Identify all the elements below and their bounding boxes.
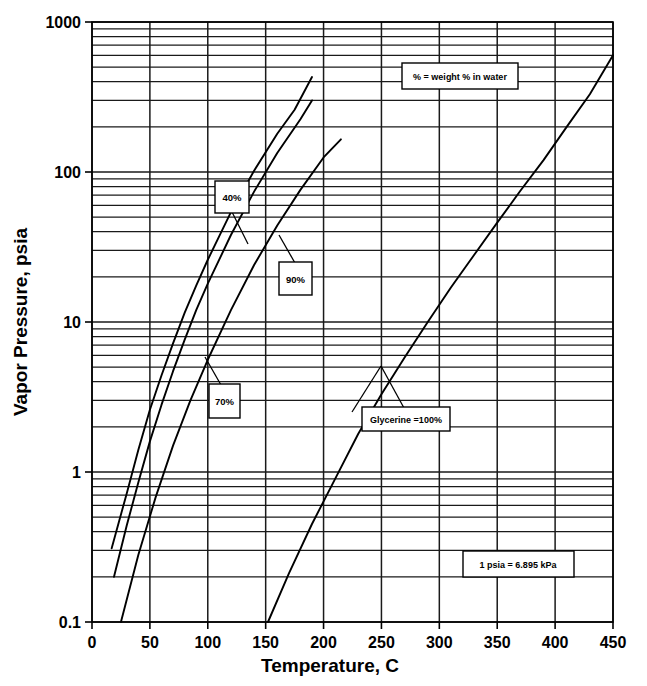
x-tick-label: 250 xyxy=(368,634,395,651)
callout-70[interactable]: 70% xyxy=(209,384,240,418)
vapor-pressure-chart: 050100150200250300350400450 0.1110100100… xyxy=(0,0,647,686)
x-tick-label: 100 xyxy=(194,634,221,651)
x-tick-label: 0 xyxy=(88,634,97,651)
callout-glycerine[interactable]: Glycerine =100% xyxy=(362,407,450,431)
x-tick-label: 150 xyxy=(252,634,279,651)
x-tick-label: 200 xyxy=(310,634,337,651)
note-psia-kpa-label: 1 psia = 6.895 kPa xyxy=(480,560,558,570)
y-tick-label: 0.1 xyxy=(59,614,81,631)
callout-90-label: 90% xyxy=(286,274,306,285)
x-tick-label: 50 xyxy=(141,634,159,651)
y-tick-label: 1000 xyxy=(45,14,81,31)
callout-90[interactable]: 90% xyxy=(279,262,312,295)
x-tick-label: 450 xyxy=(600,634,627,651)
chart-svg: 050100150200250300350400450 0.1110100100… xyxy=(0,0,647,686)
y-tick-label: 1 xyxy=(72,464,81,481)
callout-70-label: 70% xyxy=(215,396,235,407)
callout-40-label: 40% xyxy=(222,192,242,203)
y-axis-title: Vapor Pressure, psia xyxy=(10,228,31,416)
x-tick-label: 400 xyxy=(542,634,569,651)
y-tick-label: 100 xyxy=(54,164,81,181)
callout-glycerine-label: Glycerine =100% xyxy=(370,415,442,425)
x-tick-label: 300 xyxy=(426,634,453,651)
note-psia-kpa[interactable]: 1 psia = 6.895 kPa xyxy=(463,551,574,577)
note-weight-percent-label: % = weight % in water xyxy=(413,72,507,82)
note-weight-percent[interactable]: % = weight % in water xyxy=(402,63,518,89)
callout-40[interactable]: 40% xyxy=(215,181,249,213)
y-tick-label: 10 xyxy=(63,314,81,331)
x-tick-label: 350 xyxy=(484,634,511,651)
x-axis-title: Temperature, C xyxy=(261,655,399,676)
